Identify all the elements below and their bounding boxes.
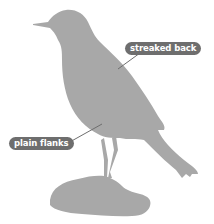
leg-back xyxy=(101,138,108,180)
rock-shape xyxy=(50,176,151,217)
leader-line-streaked-back xyxy=(118,53,140,69)
label-plain-flanks: plain flanks xyxy=(9,137,74,150)
label-streaked-back: streaked back xyxy=(125,42,201,55)
leg-front xyxy=(108,136,118,178)
bird-diagram: streaked back plain flanks xyxy=(0,0,214,224)
bird-silhouette xyxy=(0,0,214,224)
